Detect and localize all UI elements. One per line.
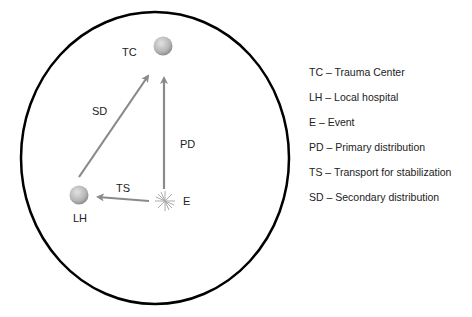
event-label: E bbox=[183, 195, 190, 207]
transport-stabilization-label: TS bbox=[116, 182, 130, 194]
legend-item-tc: TC – Trauma Center bbox=[309, 66, 451, 91]
legend-item-sd: SD – Secondary distribution bbox=[309, 191, 451, 216]
legend-item-e: E – Event bbox=[309, 116, 451, 141]
trauma-center-node bbox=[154, 37, 173, 56]
local-hospital-label: LH bbox=[73, 212, 87, 224]
sd-arrow bbox=[79, 76, 148, 177]
ts-arrow bbox=[98, 197, 149, 201]
secondary-distribution-label: SD bbox=[92, 105, 107, 117]
legend-item-ts: TS – Transport for stabilization bbox=[309, 166, 451, 191]
legend-item-lh: LH – Local hospital bbox=[309, 91, 451, 116]
legend: TC – Trauma Center LH – Local hospital E… bbox=[309, 66, 451, 216]
event-burst-icon bbox=[155, 191, 175, 211]
region-boundary bbox=[21, 12, 289, 304]
legend-item-pd: PD – Primary distribution bbox=[309, 141, 451, 166]
local-hospital-node bbox=[70, 186, 89, 205]
trauma-center-label: TC bbox=[122, 46, 137, 58]
primary-distribution-label: PD bbox=[180, 138, 195, 150]
